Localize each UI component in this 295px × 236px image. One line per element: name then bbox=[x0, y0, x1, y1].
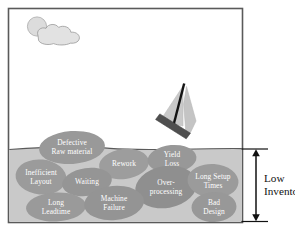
rock-label-line-1: Bad bbox=[208, 198, 220, 207]
rock-label-line-1: Machine bbox=[101, 194, 128, 203]
rock-label-line-1: Long bbox=[48, 198, 64, 207]
rock-label-line-2: Times bbox=[204, 181, 223, 190]
rock-label-line-2: Design bbox=[203, 207, 225, 216]
low-inventory-label-line-1: Low bbox=[264, 172, 285, 184]
rock-label-line-1: Long Setup bbox=[195, 172, 230, 181]
rock-label-line-1: Over- bbox=[157, 178, 175, 187]
rock-label-line-1: Defective bbox=[57, 138, 87, 147]
low-inventory-label-line-2: Inventory bbox=[264, 185, 295, 197]
rock-label-line-2: Failure bbox=[103, 203, 125, 212]
rock-label-line-1: Yield bbox=[164, 150, 181, 159]
rock-label-line-2: processing bbox=[150, 187, 183, 196]
rock-label-line-2: Leadtime bbox=[42, 207, 71, 216]
rock-label-line-1: Inefficient bbox=[25, 168, 58, 177]
rock-label-line-2: Raw material bbox=[52, 147, 93, 156]
rock-label-line-1: Waiting bbox=[75, 177, 99, 186]
rock-label-line-2: Layout bbox=[30, 177, 52, 186]
diagram-canvas: Defective Raw material Rework Yield Loss… bbox=[0, 0, 295, 236]
rock-label-line-1: Rework bbox=[112, 159, 136, 168]
